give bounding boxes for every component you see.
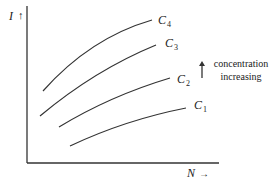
label-c3: C 3 (165, 36, 178, 52)
svg-text:increasing: increasing (220, 71, 261, 82)
concentration-annotation: concentration increasing (199, 58, 268, 82)
y-axis-label: I (8, 9, 14, 23)
x-axis-label: N (186, 166, 196, 180)
svg-text:3: 3 (174, 43, 178, 52)
svg-text:C: C (194, 98, 203, 112)
curve-c1 (70, 108, 186, 146)
svg-text:1: 1 (203, 105, 207, 114)
svg-text:concentration: concentration (214, 58, 268, 69)
curve-c2 (59, 78, 170, 127)
label-c1: C 1 (194, 98, 207, 114)
label-c2: C 2 (177, 72, 190, 88)
label-c4: C 4 (158, 13, 171, 29)
svg-text:C: C (158, 13, 167, 27)
svg-text:C: C (177, 72, 186, 86)
svg-text:2: 2 (186, 79, 190, 88)
curve-c4 (43, 20, 152, 91)
diagram-canvas: I ↑ N → C 4 C 3 C 2 C 1 concentration in… (0, 0, 279, 183)
svg-text:4: 4 (167, 20, 171, 29)
x-axis-arrow-icon: → (199, 168, 209, 179)
y-axis-arrow-icon: ↑ (18, 9, 24, 21)
svg-text:C: C (165, 36, 174, 50)
